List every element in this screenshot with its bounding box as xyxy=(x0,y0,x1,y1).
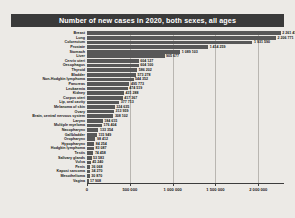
bar[interactable] xyxy=(87,101,119,105)
bar[interactable] xyxy=(87,73,136,77)
bar[interactable] xyxy=(87,78,134,82)
bar-rows: Breast2 261 419Lung2 206 771Colorectum1 … xyxy=(11,31,284,183)
bar[interactable] xyxy=(87,161,91,165)
bar[interactable] xyxy=(87,133,97,137)
x-tick-label: 1 000 000 xyxy=(164,187,182,192)
bar[interactable] xyxy=(87,179,89,183)
bar[interactable] xyxy=(87,59,139,63)
bar-row[interactable]: Vagina17 908 xyxy=(11,179,284,184)
bar-value-label: 17 908 xyxy=(90,179,101,183)
bar[interactable] xyxy=(87,50,180,54)
bar[interactable] xyxy=(87,68,137,72)
bar-chart: 0500 0001 000 0001 500 0002 000 000 Brea… xyxy=(11,31,284,206)
bar[interactable] xyxy=(87,31,281,35)
bar[interactable] xyxy=(87,128,98,132)
axis-tick xyxy=(87,184,88,186)
bar[interactable] xyxy=(87,114,113,118)
chart-title-banner: Number of new cases in 2020, both sexes,… xyxy=(11,14,284,27)
x-tick-label: 2 000 000 xyxy=(249,187,267,192)
chart-page: Number of new cases in 2020, both sexes,… xyxy=(0,0,295,218)
axis-tick xyxy=(130,184,131,186)
bar[interactable] xyxy=(87,119,103,123)
bar[interactable] xyxy=(87,54,165,58)
bar[interactable] xyxy=(87,151,93,155)
bar[interactable] xyxy=(87,96,123,100)
x-tick-label: 0 xyxy=(86,187,88,192)
bar[interactable] xyxy=(87,156,92,160)
bar-zone: 17 908 xyxy=(87,179,284,184)
axis-baseline xyxy=(87,183,284,184)
bar[interactable] xyxy=(87,41,252,45)
page-title: Number of new cases in 2020, both sexes,… xyxy=(59,16,236,25)
bar[interactable] xyxy=(87,165,90,169)
bar[interactable] xyxy=(87,36,276,40)
bar[interactable] xyxy=(87,64,139,68)
bar[interactable] xyxy=(87,137,95,141)
bar[interactable] xyxy=(87,170,90,174)
bar[interactable] xyxy=(87,105,115,109)
x-tick-label: 500 000 xyxy=(122,187,137,192)
axis-tick xyxy=(215,184,216,186)
bar[interactable] xyxy=(87,174,90,178)
bar[interactable] xyxy=(87,45,208,49)
axis-tick xyxy=(258,184,259,186)
bar[interactable] xyxy=(87,82,129,86)
bar[interactable] xyxy=(87,124,102,128)
category-label: Vagina xyxy=(11,179,87,183)
axis-tick xyxy=(173,184,174,186)
bar[interactable] xyxy=(87,91,124,95)
x-tick-label: 1 500 000 xyxy=(206,187,224,192)
bar[interactable] xyxy=(87,110,114,114)
bar[interactable] xyxy=(87,87,128,91)
bar[interactable] xyxy=(87,147,94,151)
bar[interactable] xyxy=(87,142,94,146)
